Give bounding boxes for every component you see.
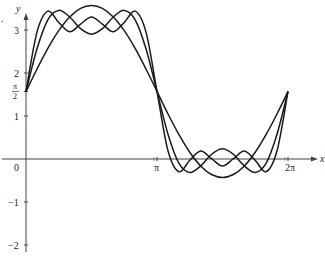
chart-plot: xy0π2π−2−11π223 [0, 0, 325, 263]
x-tick-label: 0 [14, 162, 19, 173]
svg-text:π: π [13, 82, 17, 91]
series-line-s3 [26, 11, 288, 172]
y-axis-arrow-icon [24, 13, 29, 20]
svg-text:2: 2 [13, 92, 17, 101]
y-tick-label-pi-half: π2 [12, 82, 19, 101]
y-tick-label: 2 [14, 68, 19, 79]
x-axis-label: x [319, 153, 325, 164]
x-tick-label: π [154, 162, 159, 173]
y-axis-label: y [15, 3, 21, 14]
x-tick-label: 2π [285, 162, 295, 173]
x-axis-arrow-icon [311, 157, 318, 162]
y-tick-label: 3 [14, 25, 19, 36]
y-tick-label: 1 [14, 111, 19, 122]
y-tick-label: −2 [8, 240, 19, 251]
curves [26, 5, 288, 177]
y-tick-label: −1 [8, 197, 19, 208]
